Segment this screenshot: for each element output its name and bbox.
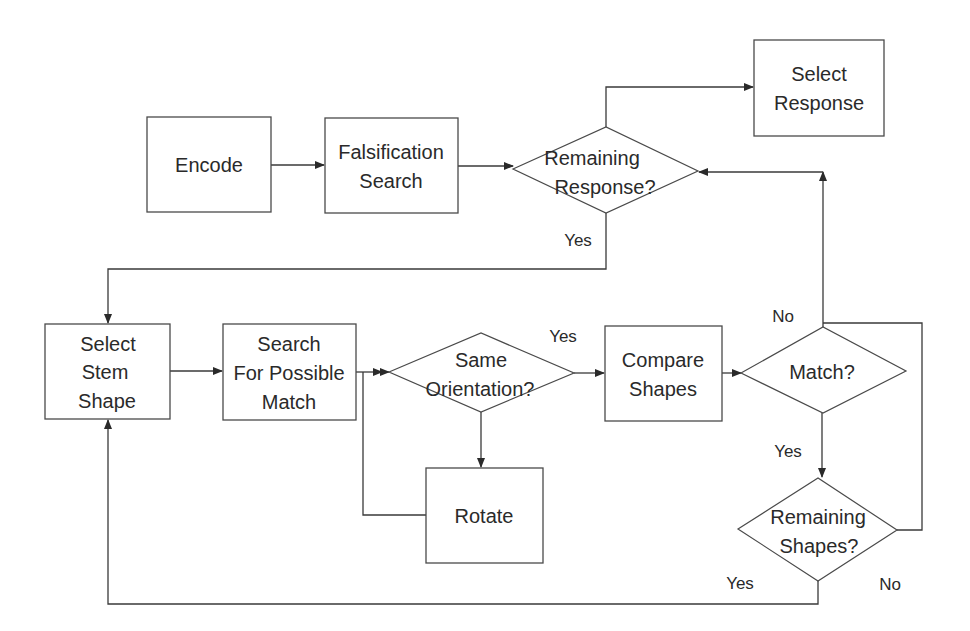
edge-label-remaining-response-yes: Yes <box>564 231 592 250</box>
node-same-orientation-line2: Orientation? <box>426 378 535 400</box>
edge-label-match-yes: Yes <box>774 442 802 461</box>
node-same-orientation-line1: Same <box>455 349 507 371</box>
node-remaining-response-diamond <box>513 127 698 213</box>
node-search-possible-match-line1: Search <box>257 333 320 355</box>
edge-rotate-to-same-orientation <box>363 372 426 515</box>
node-compare-shapes: Compare Shapes <box>605 326 722 421</box>
node-remaining-shapes: Remaining Shapes? <box>738 478 897 581</box>
node-falsification-search-line1: Falsification <box>338 141 444 163</box>
node-remaining-response: Remaining Response? <box>513 127 698 213</box>
node-remaining-shapes-line1: Remaining <box>770 506 866 528</box>
node-same-orientation-diamond <box>389 333 574 412</box>
node-select-response: Select Response <box>754 40 884 136</box>
node-select-response-box <box>754 40 884 136</box>
edge-label-same-orientation-yes: Yes <box>549 327 577 346</box>
node-select-stem-shape-line1: Select <box>80 333 136 355</box>
node-select-stem-shape-line3: Shape <box>78 390 136 412</box>
node-encode: Encode <box>147 117 271 212</box>
node-remaining-response-line1: Remaining <box>544 147 640 169</box>
node-compare-shapes-line2: Shapes <box>629 378 697 400</box>
node-match-label: Match? <box>789 361 855 383</box>
node-rotate: Rotate <box>426 468 543 563</box>
node-compare-shapes-box <box>605 326 722 421</box>
edge-remaining-response-to-select-response <box>606 87 753 127</box>
node-match: Match? <box>741 327 906 413</box>
node-remaining-response-line2: Response? <box>554 176 655 198</box>
node-select-stem-shape-line2: Stem <box>82 361 129 383</box>
node-remaining-shapes-diamond <box>738 478 897 581</box>
node-search-possible-match: Search For Possible Match <box>223 324 356 420</box>
node-falsification-search-box <box>325 118 458 213</box>
node-search-possible-match-line3: Match <box>262 391 316 413</box>
node-select-stem-shape: Select Stem Shape <box>45 324 170 419</box>
edge-label-remaining-shapes-no: No <box>879 575 901 594</box>
node-search-possible-match-line2: For Possible <box>233 362 344 384</box>
node-select-response-line2: Response <box>774 92 864 114</box>
node-encode-label: Encode <box>175 154 243 176</box>
node-select-response-line1: Select <box>791 63 847 85</box>
node-compare-shapes-line1: Compare <box>622 349 704 371</box>
edge-label-remaining-shapes-yes: Yes <box>726 574 754 593</box>
node-same-orientation: Same Orientation? <box>389 333 574 412</box>
edge-label-match-no: No <box>772 307 794 326</box>
node-remaining-shapes-line2: Shapes? <box>780 535 859 557</box>
edge-remaining-response-yes-to-select-stem <box>108 213 606 323</box>
node-rotate-label: Rotate <box>455 505 514 527</box>
flowchart: Encode Falsification Search Remaining Re… <box>0 0 970 631</box>
node-falsification-search-line2: Search <box>359 170 422 192</box>
node-falsification-search: Falsification Search <box>325 118 458 213</box>
